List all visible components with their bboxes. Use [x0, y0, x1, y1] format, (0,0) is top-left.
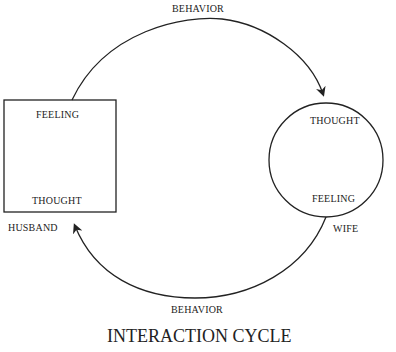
bottom-behavior-label: BEHAVIOR	[171, 304, 223, 315]
husband-feeling-label: FEELING	[36, 109, 79, 120]
diagram-title: INTERACTION CYCLE	[107, 326, 291, 347]
top-behavior-label: BEHAVIOR	[172, 3, 224, 14]
husband-thought-label: THOUGHT	[32, 195, 82, 206]
diagram-canvas	[0, 0, 396, 352]
top-behavior-arrow	[72, 18, 323, 100]
wife-thought-label: THOUGHT	[310, 115, 360, 126]
wife-feeling-label: FEELING	[312, 193, 355, 204]
husband-label: HUSBAND	[8, 222, 58, 233]
wife-label: WIFE	[333, 223, 358, 234]
bottom-behavior-arrow	[75, 217, 326, 298]
